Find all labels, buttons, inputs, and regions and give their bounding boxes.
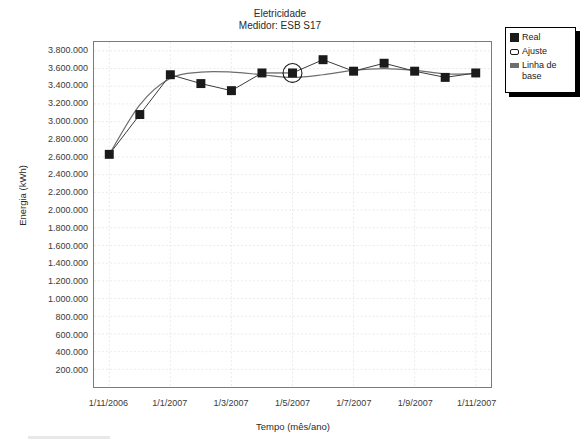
y-axis-tick-label: 600.000 [14, 330, 88, 340]
data-point-marker[interactable] [410, 67, 419, 76]
y-axis-tick-label: 3.600.000 [14, 63, 88, 73]
x-axis-tick-label: 1/11/2007 [457, 398, 496, 408]
x-axis-tick-label: 1/11/2006 [89, 398, 128, 408]
plot-svg [94, 42, 491, 387]
x-axis-tick-label: 1/1/2007 [152, 398, 187, 408]
y-axis-tick-label: 3.000.000 [14, 116, 88, 126]
y-axis-tick-label: 1.800.000 [14, 223, 88, 233]
y-axis-tick-label: 800.000 [14, 312, 88, 322]
vertical-gridlines [109, 42, 475, 387]
legend-item-label: Linha de base [522, 60, 572, 82]
y-axis-tick-label: 400.000 [14, 347, 88, 357]
legend-item-ajuste[interactable]: Ajuste [510, 46, 572, 57]
data-point-marker[interactable] [319, 55, 328, 64]
y-axis-tick-label: 1.200.000 [14, 276, 88, 286]
bottom-ui-strip [28, 436, 110, 439]
y-axis-tick-labels: 200.000400.000600.000800.0001.000.0001.2… [12, 41, 88, 388]
legend-item-label: Ajuste [522, 46, 572, 57]
x-axis-tick-label: 1/7/2007 [336, 398, 371, 408]
chart-title: Eletricidade [254, 8, 306, 19]
data-point-marker[interactable] [135, 110, 144, 119]
legend-item-label: Real [522, 32, 572, 43]
y-axis-tick-label: 2.800.000 [14, 134, 88, 144]
x-axis-tick-label: 1/5/2007 [275, 398, 310, 408]
chart-container: Eletricidade Medidor: ESB S17 Energia (k… [0, 0, 586, 444]
y-axis-tick-label: 1.600.000 [14, 241, 88, 251]
outlined-rect-swatch [510, 49, 519, 55]
plot-area [93, 41, 492, 388]
y-axis-tick-label: 2.200.000 [14, 187, 88, 197]
data-point-marker[interactable] [441, 73, 450, 82]
gray-bar-swatch [510, 63, 519, 68]
x-axis-title: Tempo (mês/ano) [93, 421, 493, 432]
x-axis-tick-label: 1/3/2007 [214, 398, 249, 408]
data-point-marker[interactable] [227, 86, 236, 95]
data-point-marker[interactable] [166, 70, 175, 79]
data-point-marker[interactable] [105, 150, 114, 159]
y-axis-tick-label: 1.400.000 [14, 258, 88, 268]
x-axis-tick-label: 1/9/2007 [398, 398, 433, 408]
chart-subtitle: Medidor: ESB S17 [120, 20, 440, 32]
data-point-marker[interactable] [471, 68, 480, 77]
y-axis-tick-label: 1.000.000 [14, 294, 88, 304]
legend-item-real[interactable]: Real [510, 32, 572, 43]
y-axis-tick-label: 3.800.000 [14, 45, 88, 55]
y-axis-tick-label: 2.400.000 [14, 169, 88, 179]
data-point-marker[interactable] [288, 68, 297, 77]
y-axis-tick-label: 3.200.000 [14, 98, 88, 108]
x-axis-tick-labels: 1/11/20061/1/20071/3/20071/5/20071/7/200… [93, 398, 492, 414]
chart-title-block: Eletricidade Medidor: ESB S17 [120, 8, 440, 32]
data-point-marker[interactable] [380, 59, 389, 68]
data-point-marker[interactable] [257, 68, 266, 77]
y-axis-tick-label: 200.000 [14, 365, 88, 375]
filled-square-swatch [510, 33, 519, 42]
y-axis-tick-label: 3.400.000 [14, 80, 88, 90]
data-point-marker[interactable] [349, 67, 358, 76]
data-point-marker[interactable] [196, 79, 205, 88]
chart-legend[interactable]: RealAjusteLinha de base [505, 27, 576, 93]
legend-item-linha-de-base[interactable]: Linha de base [510, 60, 572, 82]
y-axis-tick-label: 2.000.000 [14, 205, 88, 215]
y-axis-tick-label: 2.600.000 [14, 152, 88, 162]
